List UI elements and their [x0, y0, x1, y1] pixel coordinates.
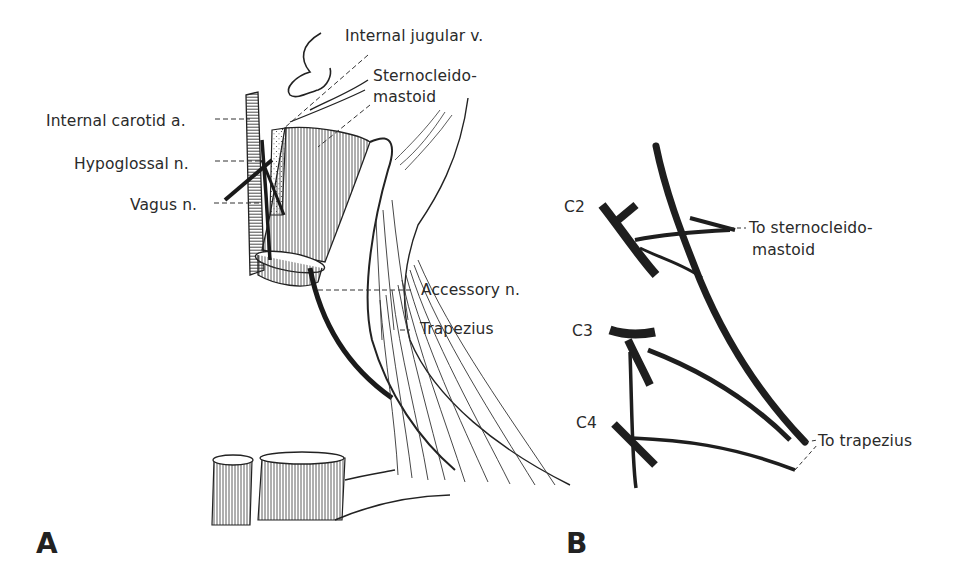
label-to-sternocleidomastoid-line2: mastoid [752, 241, 815, 259]
label-c3: C3 [572, 322, 593, 340]
panel-letter-a: A [36, 527, 58, 560]
label-internal-jugular-vein: Internal jugular v. [345, 27, 483, 45]
label-trapezius: Trapezius [420, 320, 494, 338]
label-c4: C4 [576, 414, 597, 432]
label-c2: C2 [564, 198, 585, 216]
label-sternocleidomastoid-line1: Sternocleido- [373, 67, 477, 85]
c3-root [610, 330, 655, 334]
panel-letter-b: B [566, 527, 587, 560]
accessory-nerve-trunk [656, 146, 805, 442]
panel-b-leader-lines [730, 228, 818, 470]
anatomical-figure: Internal jugular v. Sternocleido- mastoi… [0, 0, 969, 575]
label-hypoglossal-nerve: Hypoglossal n. [74, 155, 189, 173]
label-internal-carotid-artery: Internal carotid a. [46, 112, 186, 130]
label-sternocleidomastoid-line2: mastoid [373, 88, 436, 106]
label-to-trapezius: To trapezius [818, 432, 912, 450]
label-to-sternocleidomastoid-line1: To sternocleido- [749, 219, 873, 237]
label-accessory-nerve: Accessory n. [421, 281, 520, 299]
label-vagus-nerve: Vagus n. [130, 196, 197, 214]
